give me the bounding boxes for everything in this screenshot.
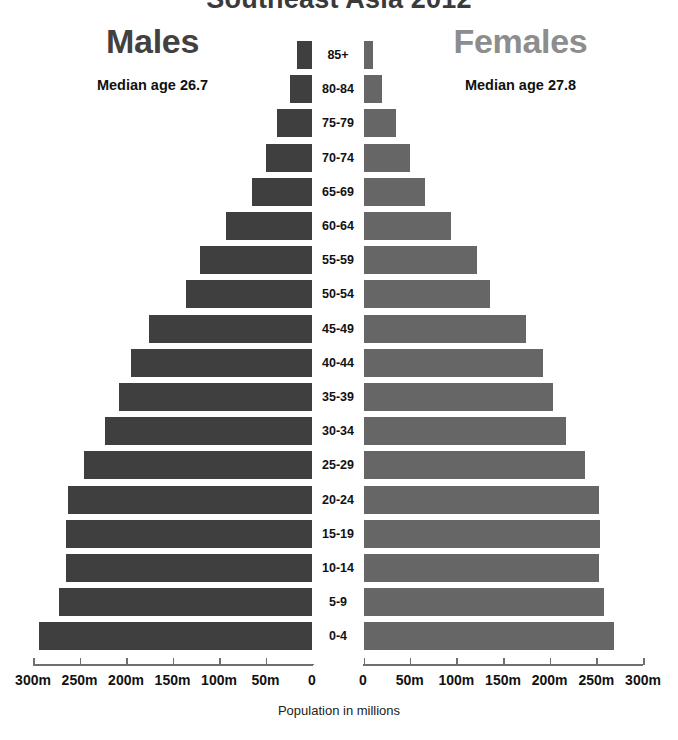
female-bar <box>363 349 543 377</box>
age-group-label: 50-54 <box>313 280 363 308</box>
axis-caption: Population in millions <box>0 703 678 718</box>
axis-tick <box>219 658 221 665</box>
age-group-label: 85+ <box>313 41 363 69</box>
male-bar <box>105 417 312 445</box>
female-bar <box>363 622 614 650</box>
age-group-label: 80-84 <box>313 75 363 103</box>
female-bar <box>363 280 490 308</box>
male-bar <box>186 280 312 308</box>
age-group-label: 25-29 <box>313 451 363 479</box>
female-bar <box>363 178 425 206</box>
female-bar <box>363 109 396 137</box>
pyramid-row: 5-9 <box>0 585 678 619</box>
pyramid-row: 0-4 <box>0 619 678 653</box>
male-bar <box>131 349 312 377</box>
pyramid-row: 75-79 <box>0 106 678 140</box>
population-pyramid-plot: 85+80-8475-7970-7465-6960-6455-5950-5445… <box>0 38 678 664</box>
female-bar <box>363 383 553 411</box>
age-group-label: 0-4 <box>313 622 363 650</box>
female-bar <box>363 144 410 172</box>
axis-tick <box>503 658 505 665</box>
female-bar <box>363 486 599 514</box>
pyramid-row: 80-84 <box>0 72 678 106</box>
age-group-label: 35-39 <box>313 383 363 411</box>
axis-tick <box>550 658 552 665</box>
pyramid-row: 15-19 <box>0 517 678 551</box>
axis-tick <box>643 658 645 665</box>
pyramid-row: 70-74 <box>0 141 678 175</box>
pyramid-row: 85+ <box>0 38 678 72</box>
pyramid-row: 55-59 <box>0 243 678 277</box>
pyramid-row: 50-54 <box>0 277 678 311</box>
age-group-label: 70-74 <box>313 144 363 172</box>
male-bar <box>149 315 312 343</box>
pyramid-row: 65-69 <box>0 175 678 209</box>
chart-title: Southeast Asia 2012 <box>0 0 678 15</box>
pyramid-row: 10-14 <box>0 551 678 585</box>
age-group-label: 20-24 <box>313 486 363 514</box>
pyramid-row: 35-39 <box>0 380 678 414</box>
age-group-label: 60-64 <box>313 212 363 240</box>
pyramid-row: 45-49 <box>0 312 678 346</box>
axis-tick <box>266 658 268 665</box>
pyramid-row: 30-34 <box>0 414 678 448</box>
axis-tick <box>33 658 35 665</box>
age-group-label: 55-59 <box>313 246 363 274</box>
axis-tick <box>80 658 82 665</box>
axis-tick <box>596 658 598 665</box>
female-bar <box>363 75 382 103</box>
age-group-label: 40-44 <box>313 349 363 377</box>
male-bar <box>59 588 312 616</box>
female-bar <box>363 315 526 343</box>
age-group-label: 30-34 <box>313 417 363 445</box>
pyramid-row: 20-24 <box>0 483 678 517</box>
male-bar <box>68 486 312 514</box>
male-bar <box>252 178 312 206</box>
age-group-label: 15-19 <box>313 520 363 548</box>
female-bar <box>363 41 373 69</box>
male-bar <box>84 451 312 479</box>
pyramid-row: 25-29 <box>0 448 678 482</box>
female-bar <box>363 520 600 548</box>
axis-tick <box>410 658 412 665</box>
male-bar <box>200 246 312 274</box>
female-bar <box>363 588 604 616</box>
age-group-label: 5-9 <box>313 588 363 616</box>
axis-tick <box>126 658 128 665</box>
male-bar <box>266 144 313 172</box>
male-bar <box>66 520 312 548</box>
axis-tick <box>173 658 175 665</box>
pyramid-row: 60-64 <box>0 209 678 243</box>
x-tick-label-right: 300m <box>613 672 673 688</box>
age-group-label: 75-79 <box>313 109 363 137</box>
male-bar <box>297 41 312 69</box>
male-bar <box>277 109 312 137</box>
pyramid-row: 40-44 <box>0 346 678 380</box>
age-group-label: 45-49 <box>313 315 363 343</box>
age-group-label: 65-69 <box>313 178 363 206</box>
male-bar <box>66 554 312 582</box>
male-bar <box>290 75 312 103</box>
male-bar <box>39 622 312 650</box>
female-bar <box>363 554 599 582</box>
female-bar <box>363 246 477 274</box>
male-bar <box>119 383 312 411</box>
age-group-label: 10-14 <box>313 554 363 582</box>
axis-tick <box>456 658 458 665</box>
male-bar <box>226 212 312 240</box>
female-bar <box>363 451 585 479</box>
female-bar <box>363 417 566 445</box>
female-bar <box>363 212 451 240</box>
